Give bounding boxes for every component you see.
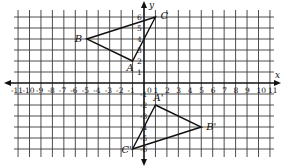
y-tick-label: 4 (137, 35, 142, 44)
y-tick-label: -1 (140, 90, 147, 99)
x-tick-label: 2 (165, 86, 170, 95)
x-tick-label: 10 (257, 86, 267, 95)
x-tick-label: 9 (245, 86, 250, 95)
x-tick-label: 6 (211, 86, 216, 95)
vertex-label: C (160, 10, 168, 21)
x-tick-label: -5 (82, 86, 90, 95)
y-tick-label: -2 (140, 101, 148, 110)
y-axis-up-arrow-icon (141, 1, 147, 8)
coordinate-plane-figure: xy -11-10-9-8-7-6-5-4-3-2-10123456789101… (0, 0, 285, 167)
y-tick-label: 1 (137, 68, 142, 77)
y-axis-down-arrow-icon (141, 159, 147, 166)
y-tick-label: -3 (140, 112, 148, 121)
y-tick-label: 5 (137, 24, 142, 33)
x-tick-label: 7 (222, 86, 227, 95)
vertex-label: A (126, 62, 134, 73)
x-tick-label: -3 (105, 86, 113, 95)
x-tick-label: -11 (11, 86, 23, 95)
x-axis-left-arrow-icon (4, 80, 11, 86)
vertex-label: C' (122, 144, 132, 155)
coordinate-plane: xy -11-10-9-8-7-6-5-4-3-2-10123456789101… (0, 0, 285, 167)
x-axis-label: x (275, 70, 280, 80)
x-tick-label: 8 (234, 86, 239, 95)
x-tick-label: 11 (268, 86, 278, 95)
x-tick-label: -1 (128, 86, 135, 95)
x-tick-label: -10 (23, 86, 35, 95)
x-tick-label: -8 (47, 86, 55, 95)
y-tick-label: 2 (137, 57, 142, 66)
x-tick-label: -2 (116, 86, 124, 95)
vertex-label: B' (205, 121, 216, 132)
x-tick-label: 5 (199, 86, 204, 95)
x-tick-label: 0 (147, 86, 152, 95)
x-tick-label: -4 (93, 86, 101, 95)
x-tick-label: 3 (176, 86, 181, 95)
y-axis-label: y (148, 0, 155, 10)
vertex-label: A' (152, 92, 163, 103)
x-tick-label: 4 (188, 86, 193, 95)
x-tick-label: -7 (59, 86, 67, 95)
x-tick-label: -9 (36, 86, 44, 95)
x-tick-label: -6 (70, 86, 78, 95)
vertex-label: B (74, 33, 82, 44)
y-tick-label: -5 (140, 134, 148, 143)
y-tick-label: 6 (137, 13, 142, 22)
